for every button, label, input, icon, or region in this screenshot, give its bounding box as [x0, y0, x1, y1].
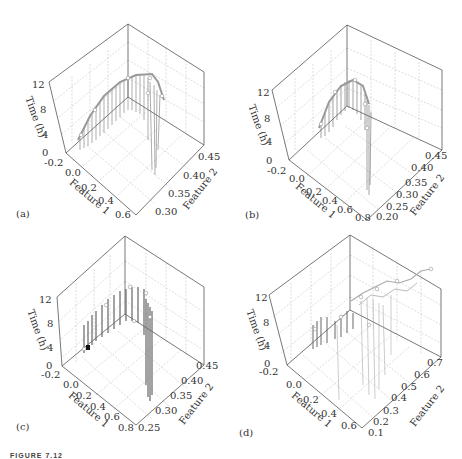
- y-tick-b: 0.35: [405, 178, 427, 188]
- panel-a: 12 8 4 0 Time (h) -0.2 0.0 0.2 0.4 0.6 F…: [0, 0, 231, 225]
- x-tick-a: 0.6: [115, 210, 131, 220]
- y-tick-d: 0.7: [427, 358, 443, 368]
- z-tick-8-a: 8: [40, 105, 46, 115]
- x-tick-d: 0.6: [341, 421, 357, 431]
- y-tick-a: 0.45: [198, 152, 220, 162]
- y-tick-d: 0.6: [414, 370, 430, 380]
- x-tick-b: -0.2: [267, 166, 286, 176]
- panel-label-a: (a): [16, 208, 30, 219]
- z-tick-12-c: 12: [39, 295, 52, 305]
- y-tick-a: 0.30: [155, 207, 177, 217]
- x-tick-d: 0.0: [286, 380, 302, 390]
- y-tick-b: 0.45: [425, 151, 447, 161]
- y-tick-c: 0.40: [181, 376, 203, 386]
- y-tick-c: 0.25: [138, 423, 160, 433]
- panel-c: 12 8 4 0 Time (h) -0.2 0.0 0.2 0.4 0.6 0…: [0, 225, 231, 450]
- x-tick-c: 0.8: [118, 423, 134, 433]
- x-tick-b: 0.6: [337, 205, 353, 215]
- z-tick-8-b: 8: [264, 114, 270, 124]
- y-tick-b: 0.25: [386, 202, 408, 212]
- z-tick-12-a: 12: [32, 80, 45, 90]
- panel-b: 12 8 4 0 Time (h) -0.2 0.0 0.2 0.4 0.6 0…: [231, 0, 462, 225]
- y-tick-c: 0.30: [155, 406, 177, 416]
- y-tick-d: 0.1: [368, 428, 384, 438]
- x-tick-a: -0.2: [44, 158, 63, 168]
- z-tick-12-d: 12: [255, 293, 268, 303]
- panel-d: 12 8 4 0 Time (h) -0.2 0.0 0.2 0.4 0.6 F…: [231, 225, 462, 450]
- y-tick-c: 0.45: [196, 361, 218, 371]
- z-tick-12-b: 12: [257, 88, 270, 98]
- y-tick-d: 0.5: [401, 382, 417, 392]
- figure-caption: FIGURE 7.12: [10, 452, 63, 459]
- y-tick-b: 0.40: [411, 163, 433, 173]
- x-tick-c: -0.2: [41, 370, 60, 380]
- x-tick-d: -0.2: [259, 367, 278, 377]
- y-tick-d: 0.3: [383, 406, 399, 416]
- z-tick-8-c: 8: [47, 319, 53, 329]
- x-tick-c: 0.0: [63, 380, 79, 390]
- y-tick-c: 0.35: [170, 391, 192, 401]
- y-tick-d: 0.2: [373, 417, 389, 427]
- y-tick-d: 0.4: [391, 393, 407, 403]
- y-tick-b: 0.20: [376, 212, 398, 222]
- x-tick-b: 0.8: [355, 213, 371, 223]
- y-tick-b: 0.30: [396, 190, 418, 200]
- z-tick-8-d: 8: [263, 318, 269, 328]
- panel-label-d: (d): [239, 427, 253, 438]
- panel-label-b: (b): [245, 209, 259, 220]
- panel-label-c: (c): [16, 421, 29, 432]
